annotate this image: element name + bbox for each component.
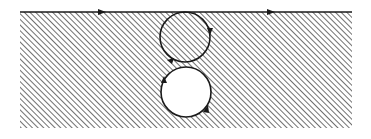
lower-circle <box>161 67 211 117</box>
figure-diagram <box>0 0 371 139</box>
